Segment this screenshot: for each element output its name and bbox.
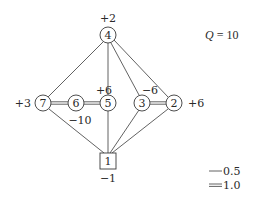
q-annotation: Q = 10	[205, 28, 238, 42]
svg-text:2: 2	[171, 97, 178, 110]
node-5: 5	[100, 95, 116, 111]
node-3: 3	[134, 95, 150, 111]
edge-3-2	[150, 102, 166, 104]
svg-text:6: 6	[73, 97, 80, 110]
charge-label-5: +6	[96, 84, 112, 97]
node-7: 7	[35, 95, 51, 111]
q-variable: Q	[205, 28, 214, 42]
nodes: 4 7 6 5 3 2 1	[35, 27, 182, 169]
edge-3-1	[110, 110, 139, 153]
charge-label-2: +6	[188, 97, 204, 110]
legend-item-double: 1.0	[209, 179, 241, 192]
svg-text:0.5: 0.5	[223, 165, 241, 178]
svg-text:4: 4	[105, 29, 112, 42]
charge-label-4: +2	[100, 12, 116, 25]
charge-label-3: −6	[142, 84, 158, 97]
svg-text:7: 7	[40, 97, 47, 110]
q-value: = 10	[214, 28, 239, 42]
charge-label-1: −1	[100, 172, 116, 185]
node-6: 6	[68, 95, 84, 111]
edge-7-6	[51, 102, 68, 104]
svg-text:1.0: 1.0	[223, 179, 241, 192]
node-4: 4	[100, 27, 116, 43]
charge-label-6: −10	[68, 114, 91, 127]
svg-text:5: 5	[105, 97, 112, 110]
edge-2-1	[112, 109, 168, 153]
edge-6-5	[84, 102, 100, 104]
node-2: 2	[166, 95, 182, 111]
double-line-icon	[209, 184, 222, 186]
graph-diagram: 4 7 6 5 3 2 1 +2 +3 −10 +6 −6	[0, 0, 253, 205]
svg-text:3: 3	[139, 97, 146, 110]
edge-4-3	[111, 43, 139, 95]
legend: 0.5 1.0	[209, 165, 241, 192]
svg-text:1: 1	[105, 155, 112, 168]
node-1: 1	[100, 153, 116, 169]
legend-item-single: 0.5	[209, 165, 241, 178]
charge-label-7: +3	[15, 97, 31, 110]
svg-text:Q = 10: Q = 10	[205, 28, 238, 42]
edge-4-7	[48, 42, 103, 97]
